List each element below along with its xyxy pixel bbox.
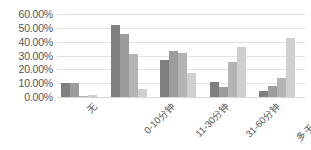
bar-group xyxy=(255,14,305,97)
bar xyxy=(169,51,178,97)
bar xyxy=(187,73,196,97)
bar xyxy=(61,83,70,97)
x-axis-tick-label: 0-10分钟 xyxy=(143,101,177,135)
bar-group-bars xyxy=(57,14,107,97)
y-axis-tick-label: 40.00% xyxy=(19,36,53,47)
bar-group-bars xyxy=(255,14,305,97)
bar xyxy=(219,87,228,97)
x-axis-tick-label: 31-60分钟 xyxy=(244,101,282,139)
bar xyxy=(70,83,79,97)
bar xyxy=(237,47,246,97)
x-axis-tick-label: 无 xyxy=(85,101,99,115)
y-axis-tick-label: 50.00% xyxy=(19,23,53,34)
bar-group-bars xyxy=(156,14,206,97)
x-axis-labels: 无0-10分钟11-30分钟31-60分钟多于60分钟 xyxy=(57,97,305,150)
bar xyxy=(129,54,138,97)
plot-area xyxy=(57,14,305,97)
y-axis-tick-label: 30.00% xyxy=(19,50,53,61)
bar xyxy=(138,89,147,97)
x-axis-tick-label: 多于60分钟 xyxy=(295,101,311,143)
x-axis-tick-label: 11-30分钟 xyxy=(194,101,232,139)
y-axis-tick-label: 10.00% xyxy=(19,78,53,89)
bar xyxy=(268,86,277,97)
y-axis-tick-label: 60.00% xyxy=(19,9,53,20)
bar xyxy=(178,53,187,97)
y-axis-labels: 0.00%10.00%20.00%30.00%40.00%50.00%60.00… xyxy=(0,14,53,97)
y-axis-tick-label: 0.00% xyxy=(24,92,53,103)
bar xyxy=(210,82,219,97)
bar-groups xyxy=(57,14,305,97)
bar xyxy=(120,34,129,97)
bar-group xyxy=(156,14,206,97)
bar xyxy=(111,25,120,97)
bar-group-bars xyxy=(107,14,157,97)
bar-chart: 0.00%10.00%20.00%30.00%40.00%50.00%60.00… xyxy=(0,0,311,150)
bar xyxy=(160,60,169,97)
bar-group-bars xyxy=(206,14,256,97)
bar xyxy=(228,62,237,97)
y-axis-tick-label: 20.00% xyxy=(19,64,53,75)
bar xyxy=(286,38,295,97)
bar-group xyxy=(57,14,107,97)
bar-group xyxy=(107,14,157,97)
bar-group xyxy=(206,14,256,97)
bar xyxy=(277,78,286,97)
